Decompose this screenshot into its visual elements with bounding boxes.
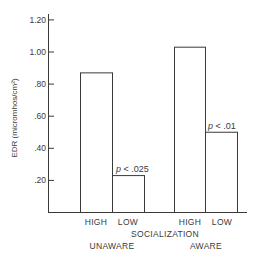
y-tick-label: .20: [34, 175, 46, 185]
group-label-unaware: UNAWARE: [90, 241, 135, 251]
y-axis-label: EDR (micromhos/cm²): [10, 78, 19, 157]
group-label-aware: AWARE: [190, 241, 222, 251]
x-tick-aware-high: HIGH: [179, 217, 201, 227]
y-tick-label: .80: [34, 79, 46, 89]
bar-aware-low: [206, 132, 238, 212]
x-tick-aware-low: LOW: [212, 217, 232, 227]
x-tick-unaware-high: HIGH: [85, 217, 107, 227]
bar-chart: .20.40.60.801.001.20 EDR (micromhos/cm²)…: [0, 0, 261, 259]
bar-aware-high: [175, 47, 206, 212]
bar-unaware-low: [113, 176, 145, 213]
y-tick-label: 1.20: [29, 15, 46, 25]
y-tick-label: .60: [34, 111, 46, 121]
bar-unaware-high: [81, 73, 113, 213]
x-tick-unaware-low: LOW: [118, 217, 138, 227]
y-tick-label: .40: [34, 143, 46, 153]
x-axis-label: SOCIALIZATION: [131, 229, 199, 239]
significance-annotation-aware: p < .01: [207, 121, 236, 131]
y-ticks: .20.40.60.801.001.20: [29, 15, 54, 186]
significance-annotation-unaware: p < .025: [115, 164, 149, 174]
y-tick-label: 1.00: [29, 47, 46, 57]
